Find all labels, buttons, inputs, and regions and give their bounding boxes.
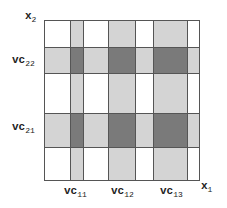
cell-vc13-vc22	[153, 47, 187, 73]
band-vc13	[153, 20, 187, 180]
label-vc21: vc21	[12, 121, 35, 135]
label-vc11: vc11	[64, 185, 87, 199]
x-axis-label: x1	[201, 180, 212, 194]
label-vc12: vc12	[111, 185, 134, 199]
label-vc22: vc22	[12, 54, 35, 68]
grid-diagram	[0, 0, 227, 208]
cell-vc12-vc21	[108, 113, 135, 147]
band-vc12	[108, 20, 135, 180]
cell-vc13-vc21	[153, 113, 187, 147]
band-vc11	[70, 20, 83, 180]
cell-vc11-vc22	[70, 47, 83, 73]
cell-vc12-vc22	[108, 47, 135, 73]
cell-vc11-vc21	[70, 113, 83, 147]
y-axis-label: x2	[25, 10, 36, 24]
label-vc13: vc13	[160, 185, 183, 199]
